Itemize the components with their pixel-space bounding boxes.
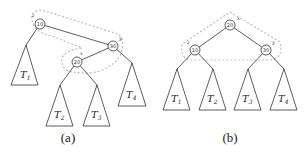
edge-z-y [40, 24, 113, 46]
node-x: 20 x [72, 50, 83, 67]
edge-x-y [230, 25, 266, 50]
tree-rotation-diagram: T1 T2 T3 T4 10 z 30 y 20 x (a) [0, 0, 306, 152]
svg-text:30: 30 [110, 43, 116, 49]
panel-b: T1 T2 T3 T4 20 x 10 z 30 y (b) [163, 12, 297, 145]
panel-a: T1 T2 T3 T4 10 z 30 y 20 x (a) [11, 10, 146, 145]
node-z: 10 z [31, 12, 45, 29]
svg-text:x: x [80, 50, 83, 56]
svg-text:y: y [271, 39, 275, 46]
svg-text:y: y [118, 35, 122, 42]
node-y: 30 y [108, 35, 122, 51]
svg-text:10: 10 [37, 21, 43, 27]
node-y: 30 y [261, 39, 275, 55]
panel-a-caption: (a) [61, 130, 75, 145]
node-z: 10 z [186, 39, 200, 55]
node-x: 20 x [225, 15, 240, 30]
svg-text:30: 30 [263, 47, 269, 53]
svg-text:20: 20 [227, 22, 233, 28]
svg-text:10: 10 [192, 47, 198, 53]
svg-text:x: x [237, 15, 240, 21]
svg-text:20: 20 [74, 59, 80, 65]
panel-b-caption: (b) [222, 130, 237, 145]
edge-x-z [195, 25, 230, 50]
svg-text:z: z [31, 12, 35, 18]
svg-text:z: z [186, 39, 190, 45]
